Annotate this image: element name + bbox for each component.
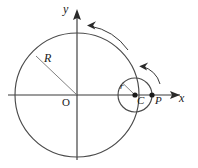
point-p-dot [149, 92, 154, 97]
origin-label: O [62, 97, 70, 108]
small-radius-label: r [120, 82, 124, 91]
big-radius-segment [36, 56, 77, 95]
y-axis-label: y [63, 3, 68, 15]
small-center-label: C [137, 95, 144, 106]
x-axis-label: x [179, 92, 184, 104]
big-radius-label: R [44, 52, 51, 64]
big-circle-rotation-arrowhead-icon [87, 21, 96, 29]
circle-diagram-figure: y x O R r C P [0, 0, 198, 168]
point-p-label: P [155, 95, 162, 106]
big-circle-rotation-arc [90, 26, 128, 50]
diagram-canvas [0, 0, 198, 168]
small-circle-rotation-arrowhead-icon [139, 63, 148, 71]
